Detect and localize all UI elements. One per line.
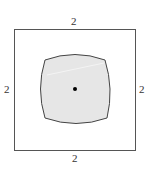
- diagram-canvas: [0, 0, 158, 172]
- center-point: [73, 87, 77, 91]
- bottom-side-label: 2: [72, 153, 78, 164]
- left-side-label: 2: [4, 84, 10, 95]
- top-side-label: 2: [71, 16, 77, 27]
- right-side-label: 2: [139, 84, 145, 95]
- square-diagram: 2 2 2 2: [0, 0, 158, 172]
